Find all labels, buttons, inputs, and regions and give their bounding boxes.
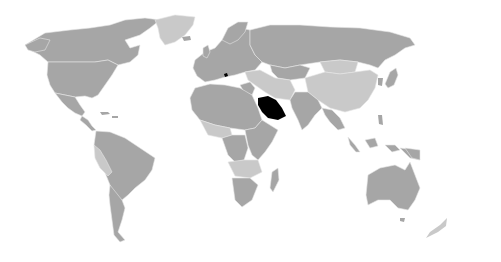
region-tasmania: [400, 218, 405, 222]
region-saudi-arabia-highlight[interactable]: [258, 96, 286, 120]
region-usa: [47, 60, 118, 98]
region-korea: [378, 78, 383, 86]
region-caribbean: [100, 112, 118, 118]
region-japan: [385, 68, 398, 88]
region-new-zealand: [426, 218, 447, 238]
region-philippines: [378, 115, 383, 125]
region-southern-africa-light: [228, 160, 262, 178]
world-map: [0, 0, 501, 262]
region-greenland: [155, 15, 195, 45]
region-madagascar: [270, 168, 279, 192]
region-central-america: [80, 116, 96, 131]
region-south-africa: [232, 178, 258, 207]
region-central-africa: [222, 135, 248, 162]
region-australia: [366, 162, 420, 210]
region-kazakhstan: [270, 65, 310, 80]
region-iceland: [182, 36, 191, 41]
